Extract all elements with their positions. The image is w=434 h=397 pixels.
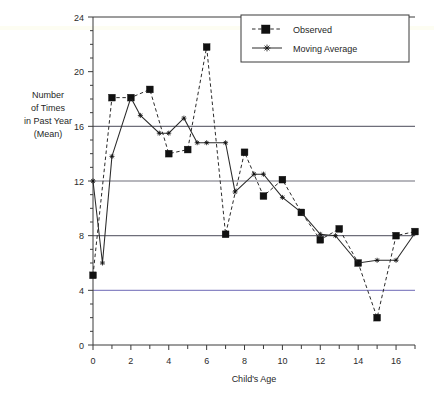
data-point-observed-5 — [184, 146, 191, 153]
y-axis-title: Number of Times in Past Year (Mean) — [24, 90, 72, 139]
data-point-moving-average-21 — [413, 230, 418, 235]
data-point-moving-average-10 — [223, 140, 228, 145]
legend-label-moving-average: Moving Average — [293, 44, 357, 54]
legend-marker-observed — [262, 25, 271, 34]
x-tick-label-14: 14 — [353, 356, 363, 366]
data-point-moving-average-19 — [375, 258, 380, 263]
x-axis-title: Child's Age — [232, 374, 277, 384]
series-line-moving-average — [93, 98, 415, 263]
y-tick-label-group: 04812162024 — [74, 13, 84, 351]
data-point-moving-average-16 — [318, 232, 323, 237]
legend-background — [241, 15, 409, 62]
series-line-observed — [93, 47, 415, 318]
data-point-observed-0 — [90, 272, 97, 279]
y-tick-label-8: 8 — [79, 231, 84, 241]
data-point-moving-average-1 — [100, 261, 105, 266]
data-point-observed-15 — [374, 314, 381, 321]
y-tick-label-20: 20 — [74, 67, 84, 77]
data-point-observed-1 — [109, 94, 116, 101]
x-tick-label-16: 16 — [391, 356, 401, 366]
data-point-observed-4 — [165, 150, 172, 157]
x-tick-label-group: 0246810121416 — [90, 356, 401, 366]
data-point-moving-average-6 — [166, 131, 171, 136]
x-tick-label-6: 6 — [204, 356, 209, 366]
data-series-group — [90, 44, 419, 321]
data-point-moving-average-4 — [138, 113, 143, 118]
x-tick-label-2: 2 — [128, 356, 133, 366]
legend-marker-moving-average — [264, 45, 271, 52]
x-tick-group — [93, 345, 415, 350]
data-point-moving-average-3 — [128, 95, 133, 100]
data-point-moving-average-0 — [91, 179, 96, 184]
data-point-moving-average-15 — [299, 210, 304, 215]
data-point-observed-12 — [317, 236, 324, 243]
y-axis-title-line-2: in Past Year — [24, 116, 72, 126]
data-point-observed-16 — [393, 232, 400, 239]
y-axis-title-line-3: (Mean) — [34, 129, 63, 139]
data-point-moving-average-20 — [394, 258, 399, 263]
line-chart-svg: 04812162024 0246810121416 Number of Time… — [0, 0, 434, 397]
data-point-moving-average-12 — [252, 172, 257, 177]
y-tick-label-16: 16 — [74, 122, 84, 132]
chart-legend: Observed Moving Average — [241, 15, 409, 62]
x-tick-label-12: 12 — [315, 356, 325, 366]
data-point-observed-7 — [222, 231, 229, 238]
data-point-observed-13 — [336, 225, 343, 232]
x-tick-label-0: 0 — [90, 356, 95, 366]
chart-container: 04812162024 0246810121416 Number of Time… — [0, 0, 434, 397]
data-point-moving-average-17 — [333, 233, 338, 238]
data-point-observed-8 — [241, 149, 248, 156]
data-point-moving-average-14 — [280, 195, 285, 200]
data-point-moving-average-7 — [181, 116, 186, 121]
x-tick-label-8: 8 — [242, 356, 247, 366]
data-point-moving-average-2 — [109, 154, 114, 159]
y-tick-label-4: 4 — [79, 286, 84, 296]
y-tick-label-0: 0 — [79, 341, 84, 351]
y-axis-title-line-0: Number — [32, 90, 64, 100]
data-point-moving-average-5 — [157, 131, 162, 136]
data-point-moving-average-13 — [261, 172, 266, 177]
x-tick-label-4: 4 — [166, 356, 171, 366]
data-point-moving-average-11 — [233, 189, 238, 194]
data-point-moving-average-9 — [204, 140, 209, 145]
legend-entry-observed: Observed — [252, 25, 332, 35]
y-tick-label-12: 12 — [74, 177, 84, 187]
data-point-moving-average-18 — [356, 261, 361, 266]
x-tick-label-10: 10 — [277, 356, 287, 366]
data-point-observed-6 — [203, 44, 210, 51]
data-point-moving-average-8 — [195, 140, 200, 145]
y-tick-label-24: 24 — [74, 13, 84, 23]
data-point-observed-10 — [279, 176, 286, 183]
data-point-observed-9 — [260, 193, 267, 200]
y-axis-title-line-1: of Times — [31, 103, 66, 113]
legend-label-observed: Observed — [293, 25, 332, 35]
data-point-observed-3 — [146, 86, 153, 93]
